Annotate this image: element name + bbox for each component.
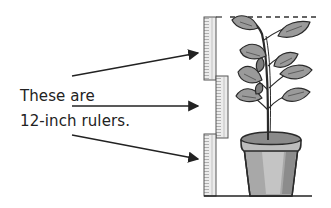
ruler-top: [204, 17, 216, 80]
plant-ruler-illustration: [0, 0, 331, 208]
arrows: [72, 53, 198, 159]
flower-pot: [241, 132, 301, 196]
leaf: [232, 16, 258, 30]
arrow-bottom: [72, 135, 198, 159]
rulers: [204, 17, 228, 196]
leaf: [240, 44, 266, 59]
arrow-top: [72, 53, 198, 76]
leaf: [256, 58, 264, 72]
ruler-bottom: [204, 134, 216, 196]
leaf: [255, 83, 262, 94]
leaf: [282, 88, 310, 101]
ruler-middle: [216, 76, 228, 138]
plant: [232, 16, 312, 140]
